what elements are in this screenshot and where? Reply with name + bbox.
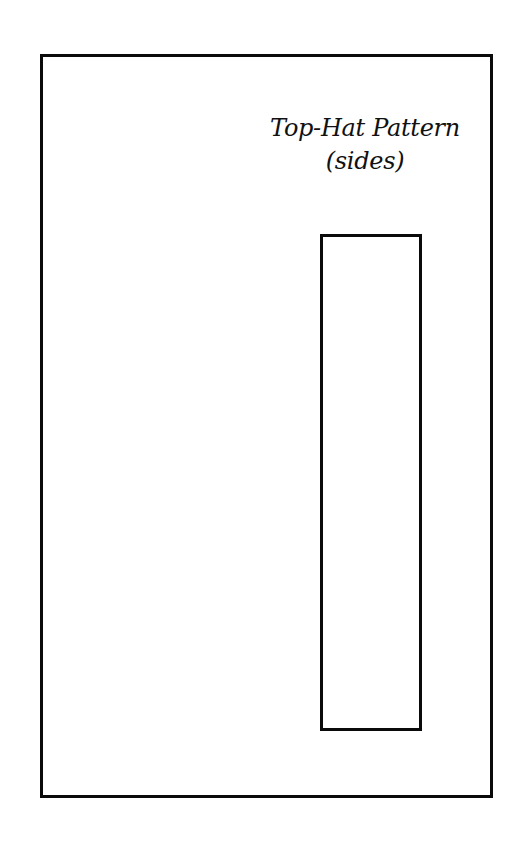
pattern-title-line1: Top-Hat Pattern: [240, 112, 490, 145]
pattern-title: Top-Hat Pattern (sides): [240, 112, 490, 178]
pattern-page: Top-Hat Pattern (sides): [0, 0, 518, 841]
pattern-title-line2: (sides): [240, 145, 490, 178]
top-hat-side-pattern-rectangle: [320, 234, 422, 731]
